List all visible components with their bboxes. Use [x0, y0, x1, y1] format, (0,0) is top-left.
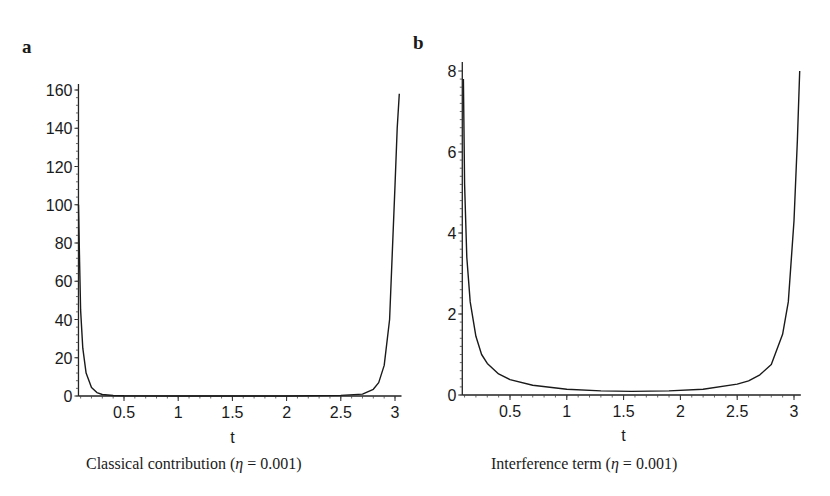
- x-axis-label: t: [230, 429, 235, 446]
- caption-suffix: = 0.001): [619, 455, 677, 472]
- caption-prefix: Classical contribution (: [86, 455, 235, 472]
- y-tick-label: 140: [46, 120, 73, 137]
- y-tick-label: 6: [447, 144, 456, 161]
- y-tick-label: 8: [447, 63, 456, 80]
- x-tick-label: 0.5: [499, 403, 521, 420]
- y-tick-label: 80: [55, 235, 73, 252]
- caption-suffix: = 0.001): [243, 455, 301, 472]
- y-tick-label: 20: [55, 350, 73, 367]
- x-tick-label: 2: [676, 403, 685, 420]
- chart-b: 0.511.522.5302468t: [447, 62, 800, 444]
- x-tick-label: 2.5: [726, 403, 748, 420]
- y-tick-label: 0: [64, 388, 73, 405]
- x-tick-label: 1.5: [612, 403, 634, 420]
- caption-classical-contribution: Classical contribution (η = 0.001): [86, 455, 302, 473]
- y-tick-label: 4: [447, 225, 456, 242]
- y-tick-label: 160: [46, 82, 73, 99]
- y-tick-label: 100: [46, 197, 73, 214]
- figure-canvas: 0.511.522.53020406080100120140160t0.511.…: [0, 0, 830, 496]
- eta-symbol: η: [611, 455, 619, 472]
- y-tick-label: 2: [447, 306, 456, 323]
- x-tick-label: 2: [282, 404, 291, 421]
- caption-prefix: Interference term (: [491, 455, 611, 472]
- y-tick-label: 120: [46, 159, 73, 176]
- chart-a: 0.511.522.53020406080100120140160t: [46, 82, 402, 446]
- x-axis-label: t: [621, 427, 626, 444]
- x-tick-label: 2.5: [330, 404, 352, 421]
- x-tick-label: 1: [562, 403, 571, 420]
- y-tick-label: 40: [55, 312, 73, 329]
- y-tick-label: 60: [55, 273, 73, 290]
- x-tick-label: 1.5: [221, 404, 243, 421]
- x-tick-label: 3: [790, 403, 799, 420]
- x-tick-label: 0.5: [113, 404, 135, 421]
- series-line-interference: [463, 71, 799, 391]
- x-tick-label: 1: [174, 404, 183, 421]
- series-line-classical: [79, 94, 400, 396]
- y-tick-label: 0: [447, 387, 456, 404]
- caption-interference-term: Interference term (η = 0.001): [491, 455, 677, 473]
- x-tick-label: 3: [391, 404, 400, 421]
